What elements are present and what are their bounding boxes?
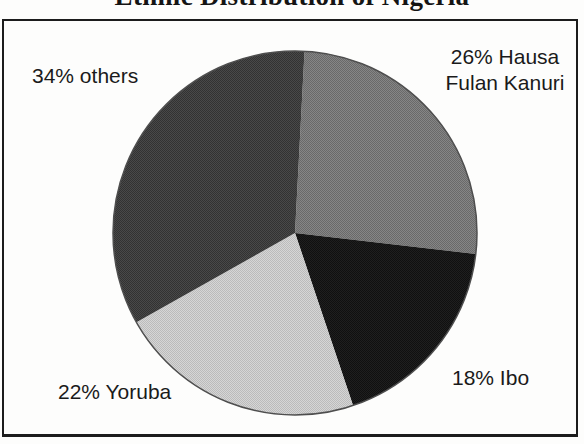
slice-label-ibo: 18% Ibo [452, 365, 529, 391]
pie-chart-figure: Ethnic Distribution of Nigeria 26% Hausa… [0, 0, 584, 444]
slice-label-yoruba: 22% Yoruba [58, 379, 171, 405]
slice-label-hausa-fulan-kanuri: 26% Hausa Fulan Kanuri [434, 44, 576, 97]
slice-label-others: 34% others [32, 63, 138, 89]
